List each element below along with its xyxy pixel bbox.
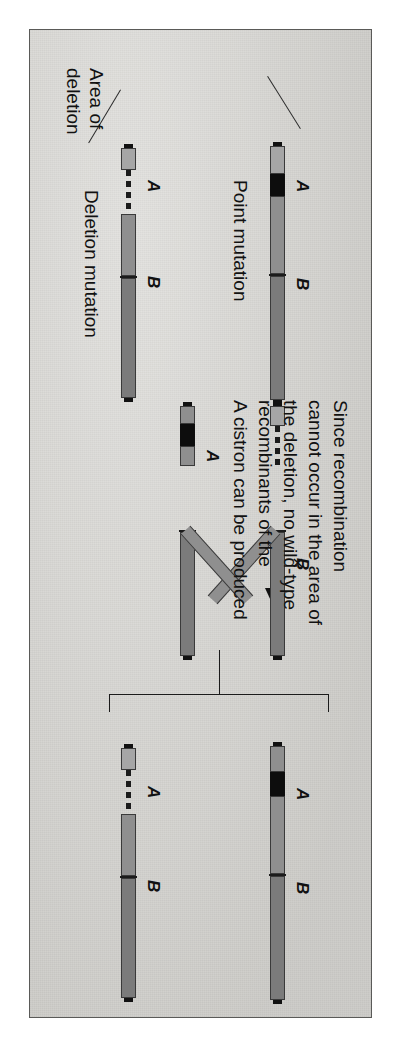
recombination-diagram: A B Point mutation A B Deletion mutation… — [30, 30, 372, 1018]
cistron-a-segment-left — [270, 746, 285, 772]
parent-point-mutation-chromosome — [270, 142, 285, 404]
point-mutation-marker — [180, 424, 195, 446]
cistron-a-segment-right — [270, 796, 285, 874]
cistron-b-segment — [121, 878, 136, 998]
parent-point-label-a: A — [294, 180, 311, 192]
caption-line-3: the deletion, no wild-type — [279, 400, 301, 610]
telomere-cap-right — [183, 656, 192, 660]
crossover-label-a: A — [204, 450, 221, 462]
telomere-cap-right — [124, 998, 133, 1002]
figure-page: A B Point mutation A B Deletion mutation… — [0, 0, 397, 1046]
cistron-b-segment — [180, 532, 195, 656]
parent-deletion-chromosome — [121, 144, 136, 402]
deletion-terminal-stub — [121, 148, 136, 170]
point-mutation-leader-line — [267, 76, 301, 129]
product-bracket-stem — [219, 650, 220, 694]
cistron-a-segment-right — [270, 196, 285, 274]
product-lower-label-a: A — [145, 786, 162, 798]
deletion-gap-dashes — [126, 170, 131, 214]
telomere-cap-right — [124, 398, 133, 402]
point-mutation-marker — [270, 772, 285, 796]
deletion-mutation-label: Deletion mutation — [81, 190, 102, 338]
area-of-deletion-label-line1: Area of — [86, 68, 107, 129]
parent-deletion-label-b: B — [145, 276, 162, 288]
parent-deletion-label-a: A — [145, 180, 162, 192]
cistron-b-segment — [270, 276, 285, 400]
product-upper-chromosome — [270, 742, 285, 1004]
product-bracket — [109, 694, 329, 712]
cistron-b-segment — [270, 876, 285, 1000]
cistron-b-segment — [121, 278, 136, 398]
caption-line-4: recombinants of the — [254, 400, 276, 567]
product-upper-label-b: B — [294, 882, 311, 894]
cistron-a-segment — [121, 214, 136, 276]
deletion-terminal-stub — [121, 748, 136, 770]
product-upper-label-a: A — [294, 788, 311, 800]
point-mutation-label: Point mutation — [230, 180, 251, 301]
caption-line-2: cannot occur in the area of — [304, 400, 326, 625]
cistron-a-segment-left — [180, 406, 195, 424]
parent-point-label-b: B — [294, 278, 311, 290]
caption-line-5: A cistron can be produced — [229, 400, 251, 620]
telomere-cap-right — [273, 1000, 282, 1004]
product-lower-label-b: B — [145, 880, 162, 892]
cistron-a-segment-right — [180, 446, 195, 466]
deletion-gap-dashes — [126, 770, 131, 814]
area-of-deletion-label-line2: deletion — [63, 68, 84, 135]
figure-frame: A B Point mutation A B Deletion mutation… — [29, 29, 372, 1018]
cistron-a-segment — [121, 814, 136, 876]
product-lower-chromosome — [121, 744, 136, 1002]
point-mutation-marker — [270, 174, 285, 196]
crossover-strand-lower-left-arm — [180, 402, 195, 532]
cistron-a-segment-left — [270, 146, 285, 174]
telomere-cap-right — [273, 656, 282, 660]
caption-line-1: Since recombination — [329, 400, 351, 572]
